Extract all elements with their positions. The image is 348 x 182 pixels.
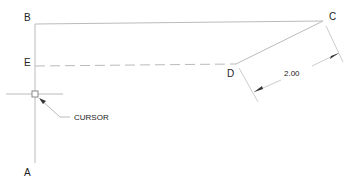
point-label-d: D	[227, 68, 234, 79]
drawing-canvas: 2.00 CURSOR B C E D A	[0, 0, 348, 182]
dimension-arrow-left-icon	[254, 86, 263, 92]
extension-line-c	[326, 26, 343, 62]
cursor-label: CURSOR	[74, 113, 109, 122]
line-d-c	[236, 21, 323, 64]
extension-line-d	[239, 68, 258, 102]
point-label-a: A	[24, 167, 31, 178]
cursor-pickbox-icon	[32, 91, 38, 97]
point-label-c: C	[329, 11, 336, 22]
point-label-b: B	[24, 12, 31, 23]
dimension-arrow-right-icon	[330, 53, 339, 59]
line-b-c	[35, 21, 323, 24]
point-label-e: E	[24, 57, 31, 68]
dashed-line-e-d	[35, 64, 236, 66]
dimension-value: 2.00	[284, 69, 300, 78]
